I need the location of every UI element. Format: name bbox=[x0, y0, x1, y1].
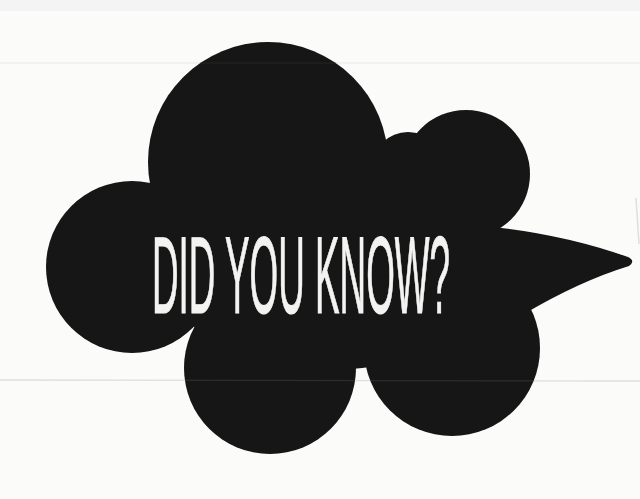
speech-bubble-graphic: DID YOU KNOW? bbox=[0, 0, 640, 499]
headline-group: DID YOU KNOW? bbox=[152, 213, 450, 337]
scan-top-strip bbox=[0, 0, 640, 11]
did-you-know-text: DID YOU KNOW? bbox=[152, 213, 450, 337]
scanned-page: DID YOU KNOW? bbox=[0, 0, 640, 499]
